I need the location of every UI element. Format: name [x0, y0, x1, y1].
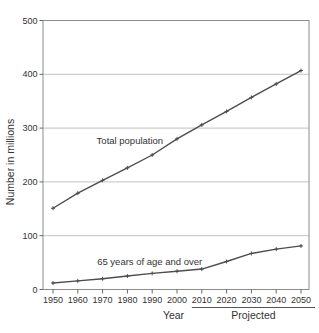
plot-border — [43, 21, 309, 290]
x-tick-label-2010: 2010 — [192, 295, 212, 305]
x-tick-label-2040: 2040 — [266, 295, 286, 305]
y-tick-label-400: 400 — [22, 69, 37, 79]
x-tick-label-2030: 2030 — [241, 295, 261, 305]
y-tick-label-0: 0 — [32, 285, 37, 295]
y-tick-label-300: 300 — [22, 123, 37, 133]
x-tick-label-1960: 1960 — [68, 295, 88, 305]
y-tick-label-200: 200 — [22, 177, 37, 187]
y-tick-label-100: 100 — [22, 231, 37, 241]
x-tick-label-1990: 1990 — [142, 295, 162, 305]
x-tick-label-1980: 1980 — [117, 295, 137, 305]
y-axis-title: Number in millions — [4, 119, 16, 205]
population-chart-figure: 0100200300400500195019601970198019902000… — [0, 0, 319, 333]
series-label-total-population: Total population — [97, 135, 164, 146]
x-tick-label-1970: 1970 — [93, 295, 113, 305]
x-tick-label-2020: 2020 — [217, 295, 237, 305]
x-tick-label-2000: 2000 — [167, 295, 187, 305]
projected-label: Projected — [231, 309, 276, 321]
y-tick-label-500: 500 — [22, 16, 37, 26]
x-tick-label-1950: 1950 — [43, 295, 63, 305]
x-axis-title: Year — [163, 309, 185, 321]
x-tick-label-2050: 2050 — [291, 295, 311, 305]
population-line-chart: 0100200300400500195019601970198019902000… — [0, 0, 319, 333]
series-label-65-years-of-age-and-over: 65 years of age and over — [97, 256, 202, 267]
